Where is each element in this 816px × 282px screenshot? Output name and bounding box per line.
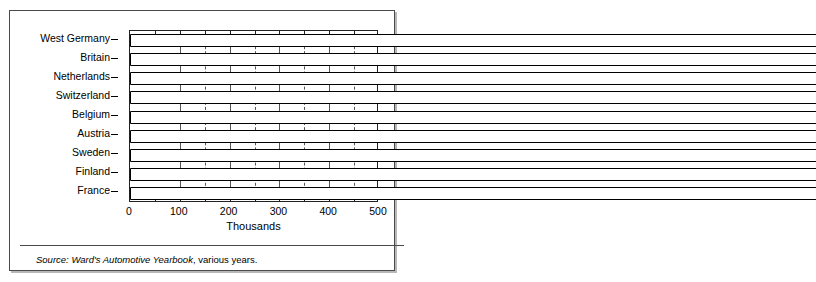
bar <box>130 168 816 181</box>
bar-series: 461,361236,916160,115127,888126,443104,6… <box>130 31 377 201</box>
source-tail: , various years. <box>193 254 257 265</box>
bar-item: 104,610 <box>130 130 379 143</box>
bar <box>130 91 816 104</box>
bar-item: 80,658 <box>130 187 379 200</box>
x-axis-tick-labels: 0100200300400500 <box>129 205 378 219</box>
category-tick <box>111 191 118 192</box>
category-label: Sweden <box>10 147 110 158</box>
x-axis-tick-label: 400 <box>319 205 337 217</box>
category-label: Netherlands <box>10 71 110 82</box>
x-axis-tick-label: 500 <box>369 205 387 217</box>
bar-item: 127,888 <box>130 91 379 104</box>
category-tick <box>111 96 118 97</box>
bar-item: 160,115 <box>130 72 379 85</box>
source-lead: Source: <box>36 254 71 265</box>
category-tick <box>111 39 118 40</box>
bar <box>130 34 816 47</box>
x-axis-tick-label: 0 <box>126 205 132 217</box>
category-label: Finland <box>10 166 110 177</box>
category-tick <box>111 77 118 78</box>
source-divider <box>20 245 404 246</box>
category-label: Switzerland <box>10 90 110 101</box>
bar-item: 94,977 <box>130 149 379 162</box>
bar-item: 236,916 <box>130 53 379 66</box>
category-tick <box>111 115 118 116</box>
source-note: Source: Ward's Automotive Yearbook, vari… <box>36 254 257 265</box>
bar <box>130 111 816 124</box>
bar <box>130 130 816 143</box>
bar <box>130 149 816 162</box>
category-label: Britain <box>10 52 110 63</box>
source-title: Ward's Automotive Yearbook <box>71 254 193 265</box>
category-label: Belgium <box>10 109 110 120</box>
category-label: West Germany <box>10 33 110 44</box>
category-axis: West GermanyBritainNetherlandsSwitzerlan… <box>10 29 118 201</box>
bar <box>130 53 816 66</box>
category-tick <box>111 153 118 154</box>
bar-item: 90,760 <box>130 168 379 181</box>
x-axis-tick-label: 300 <box>270 205 288 217</box>
category-label: Austria <box>10 128 110 139</box>
bar <box>130 72 816 85</box>
category-label: France <box>10 185 110 196</box>
bar-item: 126,443 <box>130 111 379 124</box>
category-tick <box>111 58 118 59</box>
x-axis-tick-label: 100 <box>170 205 188 217</box>
x-axis-tick-label: 200 <box>220 205 238 217</box>
x-axis-title: Thousands <box>129 220 378 232</box>
category-tick <box>111 172 118 173</box>
figure-frame: West GermanyBritainNetherlandsSwitzerlan… <box>9 10 395 271</box>
plot-area: 461,361236,916160,115127,888126,443104,6… <box>129 30 378 202</box>
bar <box>130 187 816 200</box>
bar-item: 461,361 <box>130 34 379 47</box>
category-tick <box>111 134 118 135</box>
